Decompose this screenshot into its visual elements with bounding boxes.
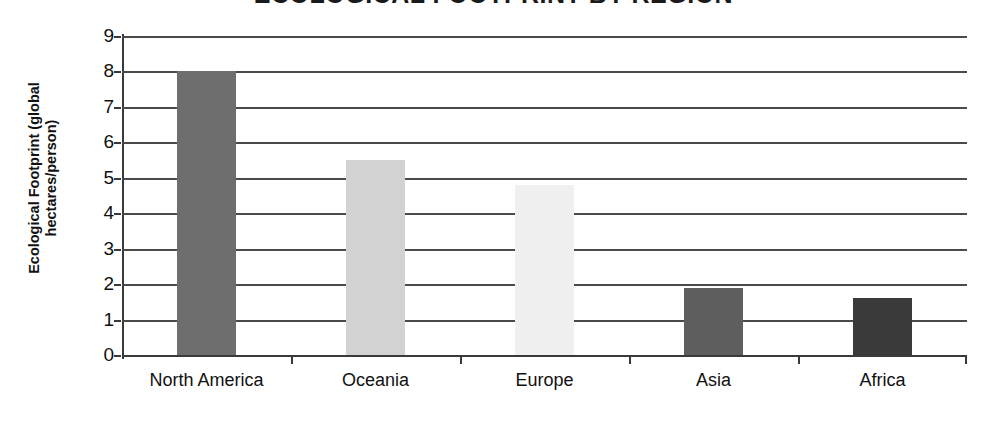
gridline-6 [122, 142, 967, 144]
y-axis-tick-labels: 0123456789 [78, 36, 114, 355]
y-tick-label-9: 9 [86, 26, 114, 45]
y-tick-label-5: 5 [86, 168, 114, 187]
y-tick-mark-7 [114, 107, 121, 109]
x-tick-mark-3 [629, 355, 631, 364]
y-axis-title: Ecological Footprint (global hectares/pe… [26, 28, 66, 328]
x-tick-mark-1 [291, 355, 293, 364]
x-axis-end-tick [965, 355, 967, 364]
bar-africa[interactable] [853, 298, 913, 355]
y-tick-label-0: 0 [86, 345, 114, 364]
bar-asia[interactable] [684, 288, 744, 355]
axis-baseline [122, 355, 967, 357]
chart-title: ECOLOGICAL FOOTPRINT BY REGION [0, 0, 987, 6]
x-tick-label-europe: Europe [460, 370, 629, 391]
y-tick-mark-3 [114, 249, 121, 251]
y-axis-title-line-1: Ecological Footprint (global [26, 28, 43, 328]
y-tick-mark-1 [114, 320, 121, 322]
y-tick-label-7: 7 [86, 97, 114, 116]
y-tick-mark-4 [114, 213, 121, 215]
x-tick-mark-2 [460, 355, 462, 364]
gridline-8 [122, 71, 967, 73]
x-tick-label-north-america: North America [122, 370, 291, 391]
y-tick-label-8: 8 [86, 61, 114, 80]
y-tick-mark-9 [114, 36, 121, 38]
y-tick-label-3: 3 [86, 239, 114, 258]
y-tick-mark-2 [114, 284, 121, 286]
y-tick-label-2: 2 [86, 274, 114, 293]
y-tick-label-6: 6 [86, 132, 114, 151]
y-axis-title-line-2: hectares/person) [43, 28, 60, 328]
gridline-5 [122, 178, 967, 180]
gridline-9 [122, 36, 967, 38]
gridline-7 [122, 107, 967, 109]
y-tick-label-1: 1 [86, 310, 114, 329]
bar-north-america[interactable] [177, 71, 237, 355]
x-tick-mark-4 [798, 355, 800, 364]
y-tick-mark-5 [114, 178, 121, 180]
y-tick-mark-8 [114, 71, 121, 73]
ecological-footprint-bar-chart: ECOLOGICAL FOOTPRINT BY REGION Ecologica… [0, 0, 987, 426]
y-tick-mark-0 [114, 355, 121, 357]
y-tick-mark-6 [114, 142, 121, 144]
x-axis-tick-labels: North AmericaOceaniaEuropeAsiaAfrica [122, 362, 967, 396]
plot-area [122, 36, 967, 355]
x-tick-label-africa: Africa [798, 370, 967, 391]
bar-oceania[interactable] [346, 160, 406, 355]
bar-europe[interactable] [515, 185, 575, 355]
y-tick-label-4: 4 [86, 203, 114, 222]
x-tick-label-asia: Asia [629, 370, 798, 391]
x-tick-label-oceania: Oceania [291, 370, 460, 391]
